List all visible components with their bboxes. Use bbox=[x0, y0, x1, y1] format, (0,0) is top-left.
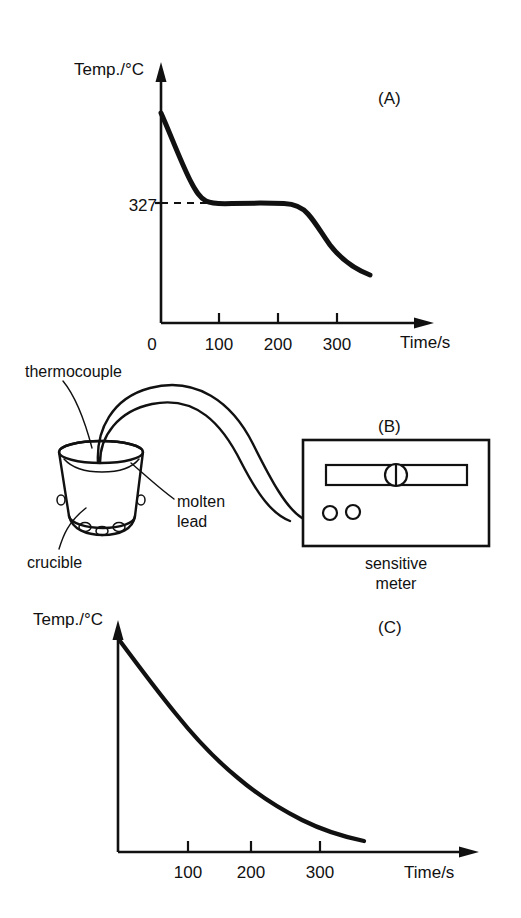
panel-a-xtick-label-200: 200 bbox=[264, 335, 292, 354]
molten-label: molten bbox=[177, 493, 225, 510]
panel-b-label: (B) bbox=[378, 417, 401, 436]
sensitive-meter-box bbox=[303, 440, 489, 546]
panel-a-y-axis-arrowhead bbox=[156, 62, 167, 82]
crucible-label: crucible bbox=[27, 554, 82, 571]
panel-c-label: (C) bbox=[378, 618, 402, 637]
sensitive-meter-label-line2: meter bbox=[376, 575, 418, 592]
sensitive-meter-label-line1: sensitive bbox=[365, 555, 427, 572]
panel-c-xtick-label-100: 100 bbox=[174, 863, 202, 882]
crucible-side-nodule-left bbox=[57, 495, 65, 505]
panel-a-xtick-label-300: 300 bbox=[323, 335, 351, 354]
panel-a-plateau-label: 327 bbox=[129, 196, 157, 215]
panel-a-xtick-label-100: 100 bbox=[205, 335, 233, 354]
panel-c-xtick-label-300: 300 bbox=[306, 863, 334, 882]
panel-a: Temp./°C Time/s 0 327 100 200 300 (A) bbox=[74, 60, 450, 354]
panel-a-cooling-curve bbox=[161, 113, 370, 275]
panel-c-y-axis-label: Temp./°C bbox=[33, 610, 103, 629]
panel-c-y-axis-arrowhead bbox=[113, 620, 124, 640]
panel-a-label: (A) bbox=[378, 89, 401, 108]
panel-c-xtick-label-200: 200 bbox=[237, 863, 265, 882]
thermocouple-label: thermocouple bbox=[25, 363, 122, 380]
thermocouple-leader-line bbox=[63, 381, 92, 448]
cooling-curve-figure: Temp./°C Time/s 0 327 100 200 300 (A) bbox=[0, 0, 521, 918]
meter-terminal-left bbox=[323, 506, 337, 520]
crucible-leader-line bbox=[59, 508, 86, 549]
panel-a-origin-label: 0 bbox=[147, 335, 156, 354]
meter-terminal-right bbox=[346, 505, 360, 519]
panel-a-x-axis-arrowhead bbox=[414, 318, 434, 329]
panel-b: thermocouple molten lead crucible sensit… bbox=[25, 363, 489, 592]
panel-c-x-axis-label: Time/s bbox=[404, 863, 454, 882]
panel-c-x-axis-arrowhead bbox=[459, 847, 479, 858]
panel-c: Temp./°C Time/s 100 200 300 (C) bbox=[33, 610, 479, 882]
lead-label: lead bbox=[177, 513, 207, 530]
panel-c-cooling-curve bbox=[120, 641, 364, 841]
figure-container: Temp./°C Time/s 0 327 100 200 300 (A) bbox=[0, 0, 521, 918]
panel-a-y-axis-label: Temp./°C bbox=[74, 60, 144, 79]
panel-a-x-axis-label: Time/s bbox=[400, 333, 450, 352]
